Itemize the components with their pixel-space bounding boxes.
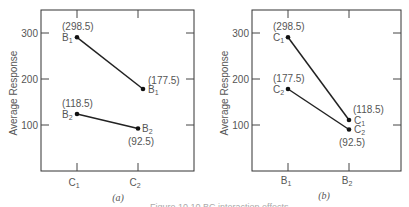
panel-caption-b: (b) xyxy=(318,190,330,202)
ytick-label-300-b: 300 xyxy=(232,28,249,39)
line-c2-b xyxy=(288,89,349,130)
line-b1-a xyxy=(77,37,143,89)
panel-b: 300 200 100 Average Response B1 B2 (298.… xyxy=(219,10,401,202)
label-b2-c2-name: B2 xyxy=(142,123,153,135)
xtick-label-b1-b: B1 xyxy=(281,175,292,187)
label-c2-b2-value: (92.5) xyxy=(339,137,365,148)
label-b1-c1-name: B1 xyxy=(62,32,73,44)
figure-caption: Figure 10.10 BC interaction effects xyxy=(150,202,289,207)
point-c2-b1 xyxy=(286,87,291,92)
point-c1-b2 xyxy=(347,118,352,123)
label-c1-b2-value: (118.5) xyxy=(353,104,384,115)
label-b2-c2-value: (92.5) xyxy=(128,136,154,147)
point-b1-c2 xyxy=(141,87,146,92)
panel-caption-a: (a) xyxy=(112,192,124,204)
label-b2-c1-value: (118.5) xyxy=(62,98,93,109)
point-b1-c1 xyxy=(75,35,80,40)
point-b2-c2 xyxy=(136,126,141,131)
ytick-label-100-a: 100 xyxy=(21,120,38,131)
label-c1-b1-value: (298.5) xyxy=(273,21,305,32)
point-c2-b2 xyxy=(347,127,352,132)
label-c1-b1-name: C1 xyxy=(273,32,284,44)
label-b2-c1-name: B2 xyxy=(62,109,73,121)
label-c2-b1-value: (177.5) xyxy=(273,73,305,84)
ytick-label-100-b: 100 xyxy=(232,120,249,131)
ytick-label-200-a: 200 xyxy=(21,74,38,85)
ytick-label-200-b: 200 xyxy=(232,74,249,85)
xtick-label-b2-b: B2 xyxy=(342,175,353,187)
line-b2-a xyxy=(77,114,138,129)
y-axis-title-b: Average Response xyxy=(219,50,230,135)
label-b1-c1-value: (298.5) xyxy=(62,21,94,32)
point-b2-c1 xyxy=(75,112,80,117)
panel-a: 300 200 100 Average Response C1 C2 (298.… xyxy=(8,10,194,204)
y-axis-title-a: Average Response xyxy=(8,50,19,135)
ytick-label-300-a: 300 xyxy=(21,28,38,39)
point-c1-b1 xyxy=(286,35,291,40)
xtick-label-c2-a: C2 xyxy=(129,177,140,189)
label-c2-b1-name: C2 xyxy=(273,84,284,96)
xtick-label-c1-a: C1 xyxy=(68,177,79,189)
